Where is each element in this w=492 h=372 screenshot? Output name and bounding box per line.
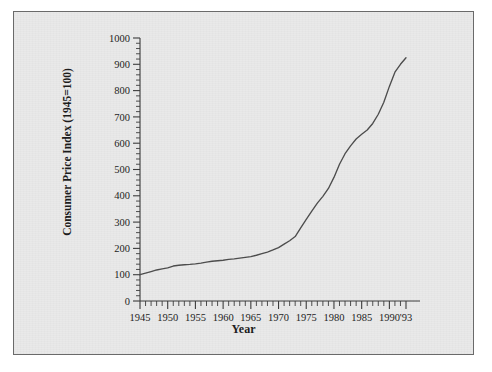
y-tick-label: 200 bbox=[114, 243, 130, 254]
series-line-consumer-price-index bbox=[140, 58, 406, 275]
axes-group: 0100200300400500600700800900100019451950… bbox=[109, 33, 420, 323]
chart-plot-area: 0100200300400500600700800900100019451950… bbox=[14, 12, 473, 354]
y-tick-label: 600 bbox=[114, 138, 130, 149]
x-axis-title: Year bbox=[14, 322, 473, 337]
y-tick-label: 400 bbox=[114, 190, 130, 201]
figure-panel: 0100200300400500600700800900100019451950… bbox=[13, 11, 474, 355]
y-tick-label: 0 bbox=[125, 296, 130, 307]
y-tick-label: 1000 bbox=[109, 33, 130, 44]
y-axis-title: Consumer Price Index (1945=100) bbox=[61, 37, 73, 267]
data-series-group bbox=[140, 58, 406, 275]
y-tick-label: 700 bbox=[114, 112, 130, 123]
y-tick-label: 900 bbox=[114, 59, 130, 70]
y-tick-label: 100 bbox=[114, 269, 130, 280]
y-tick-label: 800 bbox=[114, 85, 130, 96]
y-tick-label: 300 bbox=[114, 217, 130, 228]
y-tick-label: 500 bbox=[114, 164, 130, 175]
